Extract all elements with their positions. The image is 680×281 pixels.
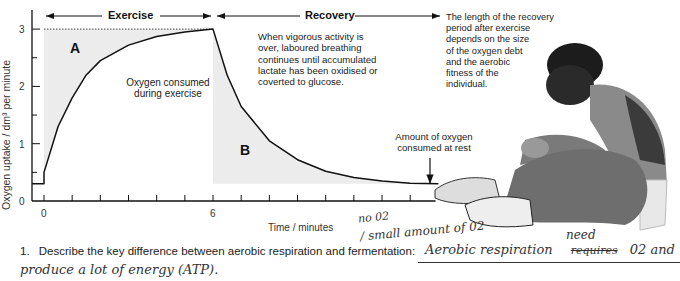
y-tick-label: 0 [19, 196, 25, 207]
answer-main: Aerobic respiration [425, 242, 553, 257]
x-tick-label: 0 [41, 208, 47, 219]
athlete-hands [521, 138, 549, 158]
answer-text[interactable]: Aerobic respiration requires 02 and [425, 242, 675, 257]
y-tick-label: 3 [19, 24, 25, 35]
y-axis-label: Oxygen uptake / dm³ per minute [0, 60, 12, 210]
y-tick-label: 1 [19, 139, 25, 150]
y-tick-label: 2 [19, 81, 25, 92]
recovery-note: When vigorous activity is over, laboured… [258, 31, 377, 87]
oxygen-consumed-note: Oxygen consumed during exercise [108, 77, 228, 100]
x-axis-label: Time / minutes [268, 222, 333, 233]
athlete-head [546, 65, 594, 105]
answer-line [418, 262, 680, 263]
question-1: 1. Describe the key difference between a… [20, 245, 415, 257]
recovery-phase-label: Recovery [305, 9, 355, 21]
athlete-photo [415, 40, 677, 240]
region-b-label: B [240, 142, 250, 158]
answer-line-2: produce a lot of energy (ATP). [20, 262, 218, 277]
answer-struck-word: requires [571, 244, 618, 257]
answer-inserted-word: need [566, 228, 596, 242]
question-number: 1. [20, 245, 30, 257]
region-a-label: A [70, 40, 80, 56]
exercise-phase-label: Exercise [108, 9, 153, 21]
answer-tail: 02 and [630, 242, 675, 257]
question-text: Describe the key difference between aero… [39, 245, 415, 257]
x-tick-label: 6 [210, 208, 216, 219]
